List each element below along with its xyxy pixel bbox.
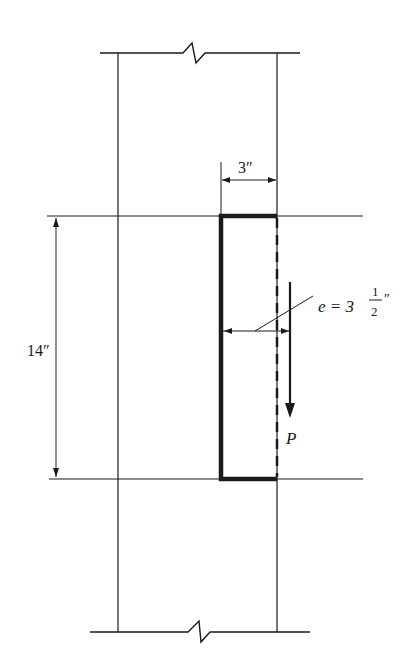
eccentricity-label: e = 3	[318, 297, 354, 316]
load-label: P	[285, 429, 296, 448]
height-dim-arrow-bottom-icon	[53, 468, 59, 477]
height-dim-arrow-top-icon	[53, 218, 59, 227]
bracket-angle	[221, 216, 277, 479]
width-dim-arrow-left-icon	[222, 177, 230, 183]
eccentricity-leader	[255, 296, 313, 331]
eccentricity-arrow-right-icon	[281, 328, 289, 334]
top-break-line	[100, 43, 300, 63]
eccentricity-fraction-num: 1	[372, 284, 379, 299]
width-dim-arrow-right-icon	[268, 177, 276, 183]
height-dim-label: 14″	[27, 342, 50, 359]
load-arrowhead-icon	[285, 403, 295, 418]
eccentricity-arrow-left-icon	[224, 328, 232, 334]
width-dim-label: 3″	[238, 159, 253, 176]
eccentricity-unit: ″	[384, 292, 390, 307]
connection-diagram: 3″ 14″ e = 3 1 2 ″ P	[0, 0, 401, 669]
eccentricity-fraction-den: 2	[371, 304, 378, 319]
